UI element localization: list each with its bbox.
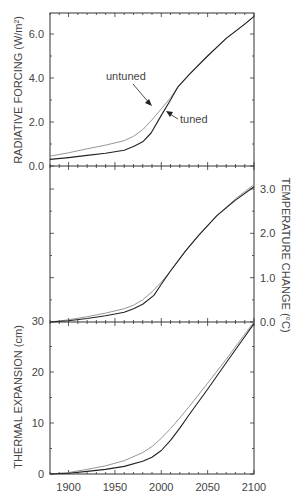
thermal-expansion-axis-label: THERMAL EXPANSION (cm) <box>12 325 24 469</box>
y-tick-label: 30 <box>32 315 44 327</box>
untuned-curve <box>50 185 254 322</box>
climate-figure: 0.02.04.06.00.01.02.03.00102030190019502… <box>0 0 306 498</box>
tick-labels: 0.02.04.06.00.01.02.03.00102030190019502… <box>29 28 276 493</box>
y-tick-label: 2.0 <box>260 227 275 239</box>
x-tick-label: 2100 <box>242 481 266 493</box>
x-tick-label: 2050 <box>195 481 219 493</box>
y-tick-label: 0.0 <box>29 160 44 172</box>
y-tick-label: 0 <box>38 468 44 480</box>
y-tick-label: 0.0 <box>260 316 275 328</box>
y-tick-label: 2.0 <box>29 116 44 128</box>
radiative-forcing-axis-label: RADIATIVE FORCING (W/m²) <box>12 16 24 164</box>
x-tick-label: 1900 <box>56 481 80 493</box>
y-tick-label: 1.0 <box>260 272 275 284</box>
y-tick-label: 6.0 <box>29 28 44 40</box>
untuned-curve <box>50 16 254 156</box>
tuned-curve <box>50 16 254 159</box>
y-tick-label: 4.0 <box>29 72 44 84</box>
data-curves <box>50 16 254 474</box>
tuned-annotation: tuned <box>180 113 208 125</box>
y-tick-label: 10 <box>32 417 44 429</box>
x-tick-label: 1950 <box>103 481 127 493</box>
untuned-curve <box>50 322 254 474</box>
tuned-curve <box>50 324 254 474</box>
y-tick-label: 20 <box>32 366 44 378</box>
tuned-arrowhead-icon <box>166 111 173 117</box>
untuned-arrowhead-icon <box>145 99 152 106</box>
tuned-curve <box>50 187 254 322</box>
axis-ticks <box>50 13 254 474</box>
panel-frames <box>50 13 254 474</box>
x-tick-label: 2000 <box>149 481 173 493</box>
temperature-change-axis-label: TEMPERATURE CHANGE (°C) <box>280 177 292 332</box>
untuned-annotation: untuned <box>106 70 146 82</box>
y-tick-label: 3.0 <box>260 183 275 195</box>
